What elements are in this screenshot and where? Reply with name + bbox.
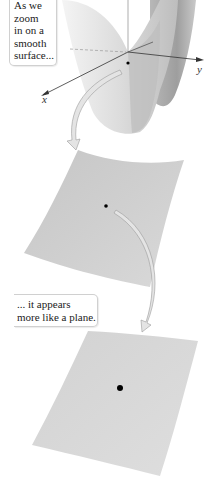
callout-plane: ... it appears more like a plane.: [14, 294, 98, 327]
callout-line: in on a: [14, 24, 54, 37]
callout-line: As we: [14, 0, 54, 12]
x-axis-label: x: [42, 93, 47, 105]
callout-zoom-in: As we zoom in on a smooth surface...: [9, 0, 57, 66]
zoom-figure: [0, 0, 212, 478]
callout-line: more like a plane.: [17, 311, 95, 324]
y-axis-label: y: [197, 63, 202, 75]
zoomed-patch: [24, 150, 184, 287]
callout-line: surface...: [14, 49, 54, 62]
plane-patch: [32, 331, 198, 476]
callout-line: zoom: [14, 12, 54, 25]
plane-point: [117, 385, 123, 391]
callout-line: ... it appears: [17, 298, 95, 311]
patch-point: [104, 204, 108, 208]
surface-point: [126, 61, 129, 64]
saddle-surface: [41, 0, 204, 134]
callout-line: smooth: [14, 37, 54, 50]
